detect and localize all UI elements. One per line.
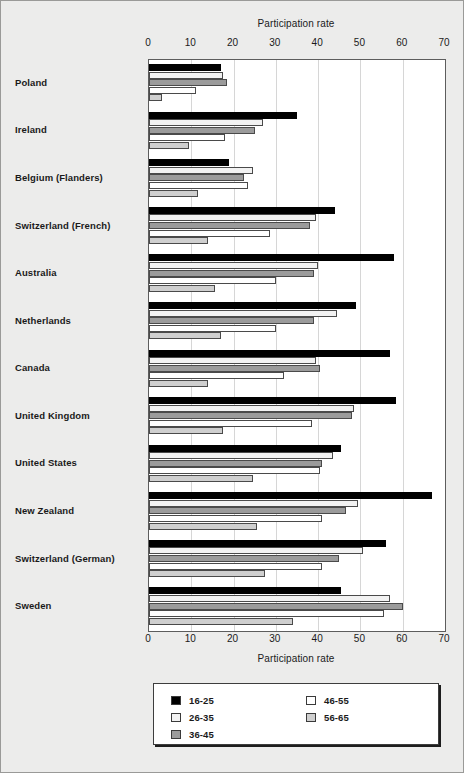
bar <box>149 412 352 419</box>
bar <box>149 94 162 101</box>
x-tick-label-20: 20 <box>227 633 238 644</box>
bar <box>149 492 432 499</box>
bar <box>149 357 316 364</box>
category-label-australia: Australia <box>15 267 133 278</box>
x-tick-label-0: 0 <box>145 633 151 644</box>
legend-item-46-55[interactable]: 46-55 <box>306 693 349 708</box>
bar <box>149 207 335 214</box>
chart-legend: 16-2526-3536-45 46-5556-65 <box>153 683 439 745</box>
bar <box>149 618 293 625</box>
bar <box>149 230 270 237</box>
bar-groups <box>149 60 445 631</box>
bar <box>149 270 314 277</box>
category-label-belgium-flanders: Belgium (Flanders) <box>15 172 133 183</box>
x-tick-label-70: 70 <box>438 37 449 48</box>
bar <box>149 254 394 261</box>
bar-group <box>149 108 445 156</box>
legend-label: 26-35 <box>189 712 214 723</box>
bar-group <box>149 298 445 346</box>
bar <box>149 500 358 507</box>
x-tick-label-10: 10 <box>185 633 196 644</box>
bar <box>149 325 276 332</box>
bar <box>149 427 223 434</box>
category-label-united-states: United States <box>15 457 133 468</box>
bar <box>149 610 384 617</box>
x-tick-label-30: 30 <box>269 37 280 48</box>
legend-item-36-45[interactable]: 36-45 <box>171 727 214 742</box>
bar <box>149 467 320 474</box>
bar-group <box>149 583 445 631</box>
legend-swatch-icon-46-55 <box>306 696 316 705</box>
bar-group <box>149 60 445 108</box>
bar <box>149 380 208 387</box>
category-label-netherlands: Netherlands <box>15 315 133 326</box>
legend-label: 56-65 <box>324 712 349 723</box>
bar <box>149 285 215 292</box>
bar <box>149 159 229 166</box>
bar-group <box>149 441 445 489</box>
bar <box>149 397 396 404</box>
bar <box>149 420 312 427</box>
bar <box>149 475 253 482</box>
bar <box>149 127 255 134</box>
bar <box>149 350 390 357</box>
bar <box>149 563 322 570</box>
plot-area <box>148 59 446 632</box>
bar <box>149 262 318 269</box>
x-tick-label-0: 0 <box>145 37 151 48</box>
legend-swatch-icon-26-35 <box>171 713 181 722</box>
x-axis-title-bottom: Participation rate <box>148 653 444 664</box>
bar <box>149 555 339 562</box>
bar <box>149 310 337 317</box>
legend-swatch-icon-56-65 <box>306 713 316 722</box>
bar <box>149 277 276 284</box>
x-tick-label-10: 10 <box>185 37 196 48</box>
bar <box>149 570 265 577</box>
x-tick-label-70: 70 <box>438 633 449 644</box>
x-axis-ticks-top: 010203040506070 <box>1 37 464 51</box>
bar <box>149 317 314 324</box>
bar <box>149 332 221 339</box>
bar <box>149 87 196 94</box>
bar <box>149 142 189 149</box>
bar <box>149 603 403 610</box>
bar-group <box>149 203 445 251</box>
category-label-canada: Canada <box>15 362 133 373</box>
bar <box>149 119 263 126</box>
bar <box>149 182 248 189</box>
bar-group <box>149 346 445 394</box>
x-tick-label-60: 60 <box>396 633 407 644</box>
category-label-sweden: Sweden <box>15 600 133 611</box>
bar <box>149 547 363 554</box>
bar <box>149 365 320 372</box>
bar <box>149 515 322 522</box>
x-tick-label-60: 60 <box>396 37 407 48</box>
bar <box>149 445 341 452</box>
legend-item-56-65[interactable]: 56-65 <box>306 710 349 725</box>
bar <box>149 79 227 86</box>
legend-item-16-25[interactable]: 16-25 <box>171 693 214 708</box>
chart-figure: Participation rate 010203040506070 Polan… <box>0 0 464 773</box>
category-label-switzerland-german: Switzerland (German) <box>15 553 133 564</box>
bar <box>149 523 257 530</box>
bar <box>149 112 297 119</box>
bar <box>149 507 346 514</box>
bar-group <box>149 250 445 298</box>
legend-item-26-35[interactable]: 26-35 <box>171 710 214 725</box>
x-axis-ticks-bottom: 010203040506070 <box>1 633 464 647</box>
x-tick-label-50: 50 <box>354 633 365 644</box>
bar <box>149 302 356 309</box>
bar-group <box>149 155 445 203</box>
x-tick-label-30: 30 <box>269 633 280 644</box>
legend-column-left: 16-2526-3536-45 <box>171 693 214 744</box>
bar <box>149 190 198 197</box>
bar <box>149 452 333 459</box>
x-axis-title-top: Participation rate <box>148 18 444 29</box>
x-tick-label-50: 50 <box>354 37 365 48</box>
bar <box>149 134 225 141</box>
bar <box>149 540 386 547</box>
bar <box>149 214 316 221</box>
x-tick-label-40: 40 <box>312 633 323 644</box>
x-tick-label-20: 20 <box>227 37 238 48</box>
bar <box>149 372 284 379</box>
